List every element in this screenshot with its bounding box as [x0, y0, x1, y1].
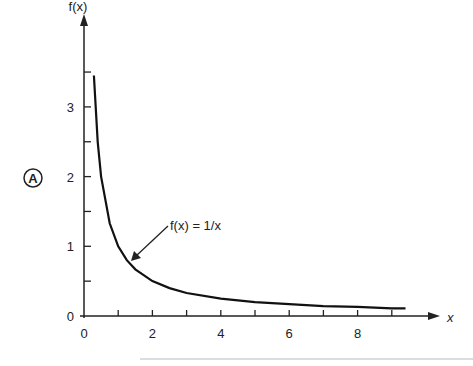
- y-axis-label: f(x): [69, 0, 88, 14]
- plot: 024680123 f(x) x f(x) = 1/x A: [0, 0, 473, 366]
- annotation-label: f(x) = 1/x: [170, 218, 221, 233]
- curve-line: [94, 76, 406, 309]
- panel-label: A: [28, 171, 38, 186]
- ticks: [84, 72, 392, 316]
- annotation-arrow: [136, 226, 168, 256]
- svg-text:1: 1: [67, 239, 74, 254]
- svg-text:2: 2: [149, 326, 156, 341]
- svg-text:0: 0: [67, 309, 74, 324]
- svg-text:6: 6: [286, 326, 293, 341]
- y-axis-arrow-icon: [80, 14, 88, 26]
- svg-text:0: 0: [80, 326, 87, 341]
- x-axis-arrow-icon: [428, 312, 440, 320]
- svg-text:2: 2: [67, 170, 74, 185]
- svg-text:4: 4: [217, 326, 224, 341]
- x-axis-label: x: [446, 310, 454, 325]
- chart: 024680123 f(x) x f(x) = 1/x A: [0, 0, 473, 366]
- svg-text:3: 3: [67, 100, 74, 115]
- svg-text:8: 8: [354, 326, 361, 341]
